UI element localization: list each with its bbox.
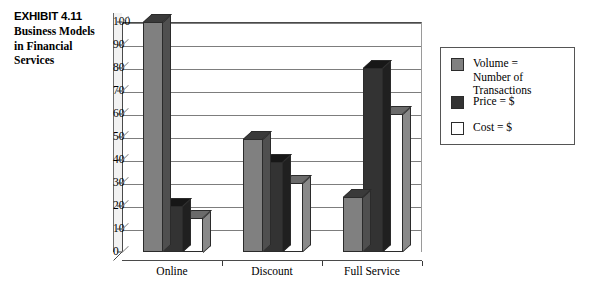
bar-front-face [343, 197, 363, 252]
x-tick-mark [322, 261, 323, 266]
x-category-label: Discount [251, 265, 293, 277]
legend-swatch-price [451, 96, 464, 109]
legend-swatch-volume [451, 58, 464, 71]
axis-floor [113, 251, 422, 261]
bar-full-service-volume [343, 197, 363, 252]
legend-label-price: Price = $ [473, 95, 515, 109]
floor-edge [122, 260, 422, 261]
bar-side-face [363, 190, 371, 252]
x-tick-mark [422, 261, 423, 266]
bar-side-face [263, 132, 271, 252]
x-tick-mark [222, 261, 223, 266]
legend-label-volume: Volume = Number of Transactions [473, 57, 574, 98]
bar-discount-volume [243, 139, 263, 252]
legend-swatch-cost [451, 122, 464, 135]
bar-side-face [403, 107, 411, 252]
chart-surface [122, 22, 422, 252]
exhibit-chart-page: EXHIBIT 4.11 Business Models in Financia… [0, 0, 600, 291]
legend-label-cost: Cost = $ [473, 121, 512, 135]
bar-side-face [383, 61, 391, 252]
chart-legend: Volume = Number of TransactionsPrice = $… [440, 47, 575, 145]
x-category-label: Online [156, 265, 187, 277]
legend-item-cost[interactable]: Cost = $ [451, 121, 512, 135]
bar-side-face [163, 15, 171, 252]
bar-online-volume [143, 22, 163, 252]
bar-front-face [143, 22, 163, 252]
bar-side-face [283, 155, 291, 252]
bar-side-face [303, 176, 311, 252]
chart-plot-area: 0102030405060708090100 OnlineDiscountFul… [113, 13, 422, 261]
x-category-label: Full Service [344, 265, 400, 277]
bar-front-face [243, 139, 263, 252]
exhibit-caption: EXHIBIT 4.11 Business Models in Financia… [14, 9, 100, 68]
legend-item-volume[interactable]: Volume = Number of Transactions [451, 57, 574, 98]
exhibit-number: EXHIBIT 4.11 [14, 9, 100, 23]
legend-item-price[interactable]: Price = $ [451, 95, 515, 109]
exhibit-title: Business Models in Financial Services [14, 24, 100, 68]
bar-side-face [183, 199, 191, 252]
